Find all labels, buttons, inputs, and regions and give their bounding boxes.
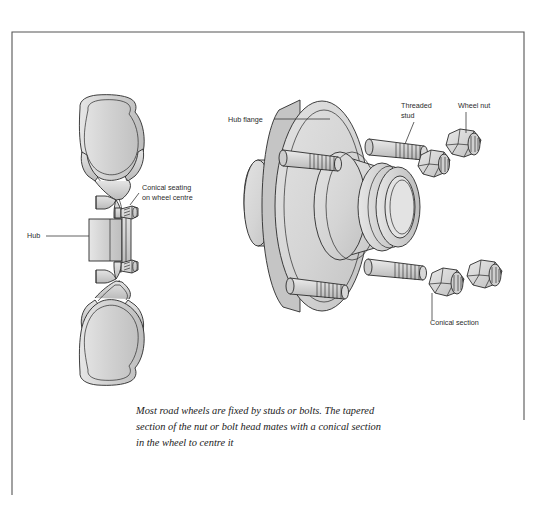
label-conical-section: Conical section (430, 318, 479, 327)
label-conical-seating-line1: Conical seating (142, 183, 191, 192)
label-wheel-nut: Wheel nut (458, 101, 490, 110)
lower-tyre-bead-ring (79, 281, 144, 385)
caption-line-2: section of the nut or bolt head mates wi… (136, 421, 381, 432)
centre-bore (376, 167, 420, 247)
right-diagram-hub-flange-assembly (244, 100, 502, 320)
wheel-nut-mid (418, 150, 450, 177)
upper-tyre-bead-ring (79, 95, 144, 200)
leader-conical-seating (130, 193, 139, 205)
label-hub-flange: Hub flange (228, 115, 263, 124)
left-diagram-wheel-rim-cross-section (46, 95, 144, 386)
label-hub: Hub (27, 231, 40, 240)
wheel-nut-lower-left (429, 268, 464, 296)
label-conical-seating-line2: on wheel centre (142, 193, 193, 202)
leader-threaded-stud (405, 122, 414, 144)
threaded-stud-lower-right (364, 259, 427, 280)
wheel-nut-lower-right (467, 260, 502, 288)
figure-caption: Most road wheels are fixed by studs or b… (135, 405, 381, 448)
wheel-bolt-upper (115, 206, 138, 219)
threaded-stud-upper-right (365, 139, 428, 160)
technical-illustration: Hub Conical seating on wheel centre Hub … (0, 0, 544, 506)
hub-block (89, 219, 122, 261)
label-threaded-stud-line2: stud (401, 111, 415, 120)
caption-line-3: in the wheel to centre it (136, 437, 235, 448)
wheel-centre-plate (122, 212, 131, 267)
figure-page: Hub Conical seating on wheel centre Hub … (0, 0, 544, 506)
caption-line-1: Most road wheels are fixed by studs or b… (135, 405, 375, 416)
label-threaded-stud-line1: Threaded (401, 101, 432, 110)
wheel-nut-top (446, 129, 481, 157)
